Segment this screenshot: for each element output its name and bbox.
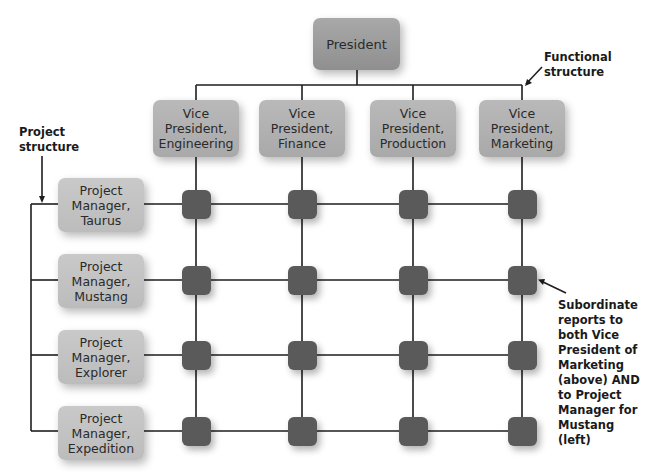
pm-expedition-label: Project Manager, Expedition	[68, 411, 134, 456]
president-label: President	[326, 37, 387, 52]
node-taurus-marketing	[508, 190, 537, 219]
vp-production-box: Vice President, Production	[370, 100, 456, 157]
vp-marketing-label: Vice President, Marketing	[491, 106, 553, 151]
node-taurus-finance	[288, 190, 317, 219]
pm-taurus-box: Project Manager, Taurus	[58, 178, 144, 232]
node-taurus-engineering	[182, 190, 211, 219]
node-explorer-production	[399, 341, 428, 370]
node-mustang-engineering	[182, 266, 211, 295]
pm-taurus-label: Project Manager, Taurus	[72, 183, 131, 228]
node-mustang-marketing	[508, 266, 537, 295]
pm-explorer-box: Project Manager, Explorer	[58, 330, 144, 384]
project-structure-label: Project structure	[19, 125, 79, 155]
node-mustang-finance	[288, 266, 317, 295]
functional-structure-label: Functional structure	[544, 50, 612, 80]
node-expedition-engineering	[182, 417, 211, 446]
vp-engineering-label: Vice President, Engineering	[159, 106, 234, 151]
node-expedition-marketing	[508, 417, 537, 446]
node-explorer-engineering	[182, 341, 211, 370]
pm-expedition-box: Project Manager, Expedition	[58, 406, 144, 460]
vp-finance-label: Vice President, Finance	[271, 106, 333, 151]
pm-explorer-label: Project Manager, Explorer	[72, 335, 131, 380]
node-expedition-finance	[288, 417, 317, 446]
vp-production-label: Vice President, Production	[380, 106, 447, 151]
pm-mustang-label: Project Manager, Mustang	[72, 259, 131, 304]
node-explorer-marketing	[508, 341, 537, 370]
president-box: President	[313, 18, 400, 70]
node-taurus-production	[399, 190, 428, 219]
matrix-org-chart: President Vice President, Engineering Vi…	[0, 0, 650, 472]
vp-finance-box: Vice President, Finance	[259, 100, 345, 157]
vp-marketing-box: Vice President, Marketing	[479, 100, 565, 157]
pm-mustang-box: Project Manager, Mustang	[58, 254, 144, 308]
node-explorer-finance	[288, 341, 317, 370]
node-expedition-production	[399, 417, 428, 446]
node-mustang-production	[399, 266, 428, 295]
subordinate-note-label: Subordinate reports to both Vice Preside…	[558, 298, 650, 448]
vp-engineering-box: Vice President, Engineering	[153, 100, 239, 157]
